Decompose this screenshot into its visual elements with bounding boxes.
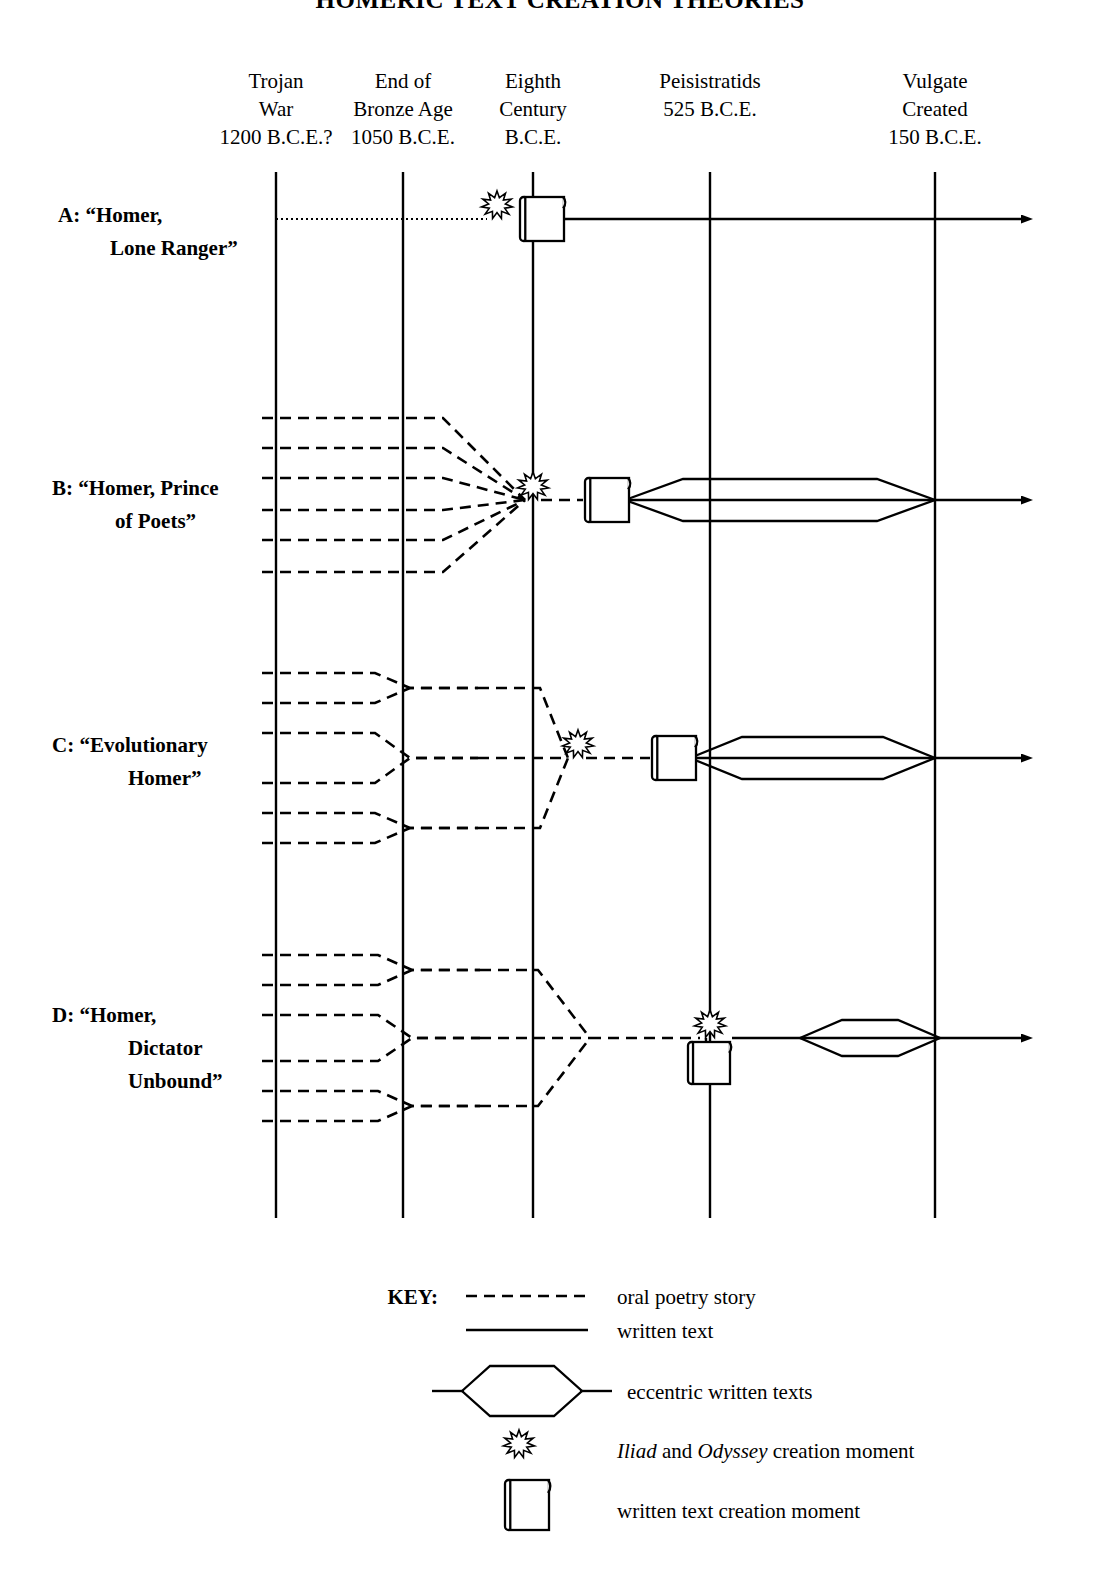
column-header-end-bronze-age: End ofBronze Age1050 B.C.E. (351, 69, 455, 149)
oral-strand-3 (262, 733, 478, 758)
oral-lane-1 (478, 688, 568, 758)
key-scroll-icon (505, 1480, 550, 1530)
homeric-timeline-diagram: HOMERIC TEXT CREATION THEORIES TrojanWar… (0, 0, 1120, 1583)
row-label-line: Dictator (128, 1036, 203, 1060)
column-header-line: 1050 B.C.E. (351, 125, 455, 149)
key-title: KEY: (387, 1285, 438, 1309)
column-header-line: Eighth (505, 69, 561, 93)
row-label-row-c: C: “EvolutionaryHomer” (52, 733, 208, 790)
row-label-line: Homer” (128, 766, 201, 790)
row-label-line: Unbound” (128, 1069, 223, 1093)
column-header-eighth-century: EighthCenturyB.C.E. (499, 69, 567, 149)
key-legend: KEY:oral poetry storywritten texteccentr… (387, 1285, 914, 1530)
oral-strand-2 (262, 970, 480, 985)
key-item-label: eccentric written texts (627, 1380, 812, 1404)
column-header-trojan-war: TrojanWar1200 B.C.E.? (219, 69, 332, 149)
written-text-scroll-icon-D (688, 1042, 731, 1084)
key-written-creation: written text creation moment (505, 1480, 860, 1530)
key-starburst-icon (503, 1430, 534, 1457)
page-title-group: HOMERIC TEXT CREATION THEORIES (316, 0, 805, 13)
column-header-line: Trojan (248, 69, 304, 93)
key-creation-moment: Iliad and Odyssey creation moment (503, 1430, 914, 1463)
oral-strand-3 (262, 1015, 480, 1038)
row-label-row-a: A: “Homer,Lone Ranger” (58, 203, 238, 260)
row-label-row-b: B: “Homer, Princeof Poets” (52, 476, 219, 533)
track-row-d (262, 955, 1022, 1121)
track-row-b (262, 418, 1022, 572)
oral-strand-5 (262, 1091, 480, 1106)
oral-lane-1 (480, 970, 590, 1038)
written-text-scroll-icon-A (520, 197, 565, 241)
oral-strand-4 (262, 758, 478, 783)
column-header-line: End of (375, 69, 432, 93)
oral-strand-6 (262, 1106, 480, 1121)
column-header-line: Bronze Age (353, 97, 453, 121)
oral-strand-2 (262, 688, 478, 703)
row-label-line: A: “Homer, (58, 203, 162, 227)
creation-moment-starburst-C (562, 730, 593, 757)
key-item-label: oral poetry story (617, 1285, 756, 1309)
row-label-line: of Poets” (115, 509, 196, 533)
oral-strand-1 (262, 673, 478, 688)
written-text-scroll-icon-B (585, 478, 630, 522)
key-eccentric: eccentric written texts (432, 1366, 812, 1416)
key-item-label: written text creation moment (617, 1499, 860, 1523)
column-header-line: 525 B.C.E. (663, 97, 756, 121)
oral-strand-2 (262, 448, 525, 500)
column-header-vulgate: VulgateCreated150 B.C.E. (888, 69, 981, 149)
oral-strand-6 (262, 828, 478, 843)
oral-strand-1 (262, 955, 480, 970)
column-header-peisistratids: Peisistratids525 B.C.E. (659, 69, 761, 121)
key-item-label: written text (617, 1319, 713, 1343)
page-title: HOMERIC TEXT CREATION THEORIES (316, 0, 805, 13)
theory-tracks (262, 191, 1022, 1121)
row-label-line: D: “Homer, (52, 1003, 156, 1027)
key-hexagon-icon (462, 1366, 582, 1416)
column-header-line: B.C.E. (505, 125, 562, 149)
column-header-line: 150 B.C.E. (888, 125, 981, 149)
oral-lane-3 (480, 1038, 590, 1106)
oral-strand-4 (262, 1038, 480, 1061)
oral-strand-1 (262, 418, 525, 500)
oral-strand-4 (262, 500, 525, 510)
key-written: written text (466, 1319, 713, 1343)
column-header-line: Century (499, 97, 567, 121)
column-header-line: War (259, 97, 293, 121)
column-header-line: Peisistratids (659, 69, 761, 93)
oral-lane-3 (478, 758, 568, 828)
row-labels: A: “Homer,Lone Ranger”B: “Homer, Princeo… (52, 203, 238, 1093)
written-text-scroll-icon-C (652, 736, 697, 780)
key-oral: oral poetry story (466, 1285, 756, 1309)
track-row-a (276, 191, 1022, 241)
column-header-line: Vulgate (902, 69, 967, 93)
creation-moment-starburst-A (481, 191, 512, 218)
key-item-label: Iliad and Odyssey creation moment (616, 1439, 915, 1463)
column-header-line: Created (902, 97, 968, 121)
oral-strand-3 (262, 478, 525, 500)
diagram-page: HOMERIC TEXT CREATION THEORIES TrojanWar… (0, 0, 1120, 1583)
column-header-line: 1200 B.C.E.? (219, 125, 332, 149)
row-label-line: Lone Ranger” (110, 236, 238, 260)
row-label-line: C: “Evolutionary (52, 733, 208, 757)
oral-strand-5 (262, 813, 478, 828)
row-label-line: B: “Homer, Prince (52, 476, 219, 500)
track-row-c (262, 673, 1022, 843)
row-label-row-d: D: “Homer,DictatorUnbound” (52, 1003, 223, 1093)
column-headers: TrojanWar1200 B.C.E.?End ofBronze Age105… (219, 69, 981, 149)
